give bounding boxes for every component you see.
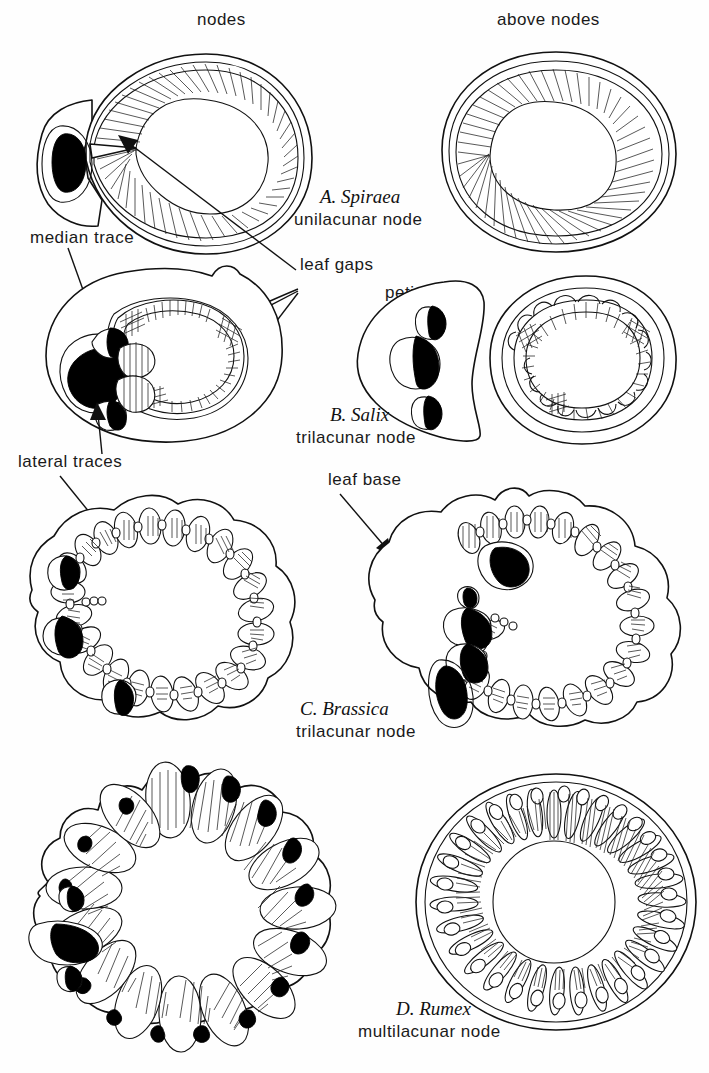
salix-node-svg bbox=[22, 252, 292, 452]
column-label-nodes: nodes bbox=[197, 10, 246, 30]
figure-b-salix-node bbox=[22, 252, 292, 452]
brassica-above-node-svg bbox=[345, 470, 700, 730]
figure-c-brassica-above-node bbox=[345, 470, 700, 730]
caption-b-nodetype: trilacunar node bbox=[296, 428, 416, 448]
brassica-node-svg bbox=[10, 472, 320, 732]
median-trace-solid bbox=[52, 134, 86, 192]
rumex-node-svg bbox=[18, 742, 348, 1062]
figure-a-spiraea-above-node bbox=[430, 44, 690, 259]
column-label-above-nodes: above nodes bbox=[497, 10, 600, 30]
caption-d-scientific: D. Rumex bbox=[396, 998, 471, 1020]
annotation-lateral-traces-leader-b bbox=[80, 398, 140, 458]
caption-b-scientific: B. Salix bbox=[330, 404, 389, 426]
figure-d-rumex-node bbox=[18, 742, 348, 1062]
figure-c-brassica-node bbox=[10, 472, 320, 732]
spiraea-above-node-svg bbox=[430, 44, 690, 259]
caption-a-scientific: A. Spiraea bbox=[320, 186, 400, 208]
figure-page: nodes above nodes bbox=[0, 0, 709, 1073]
caption-c-nodetype: trilacunar node bbox=[296, 722, 416, 742]
caption-d-nodetype: multilacunar node bbox=[358, 1022, 501, 1042]
caption-c-scientific: C. Brassica bbox=[300, 698, 389, 720]
